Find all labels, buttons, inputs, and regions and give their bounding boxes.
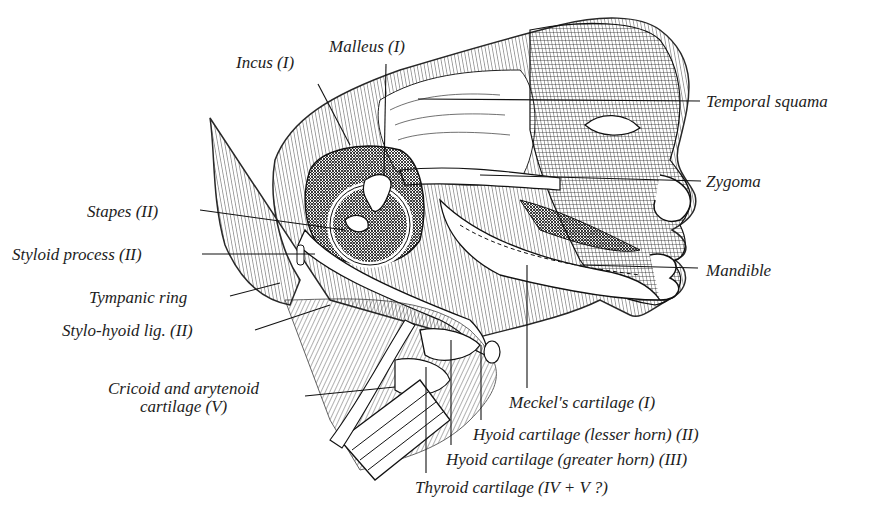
label-tympanic-ring: Tympanic ring: [89, 289, 187, 307]
label-cricoid-arytenoid: Cricoid and arytenoid cartilage (V): [108, 380, 259, 416]
label-zygoma: Zygoma: [706, 173, 761, 191]
label-styloid-process: Styloid process (II): [12, 246, 142, 264]
label-hyoid-lesser-horn: Hyoid cartilage (lesser horn) (II): [473, 426, 699, 444]
label-stylo-hyoid-lig: Stylo-hyoid lig. (II): [62, 322, 193, 340]
label-temporal-squama: Temporal squama: [706, 93, 828, 111]
label-incus: Incus (I): [236, 54, 294, 72]
label-hyoid-greater-horn: Hyoid cartilage (greater horn) (III): [446, 451, 687, 469]
label-thyroid-cartilage: Thyroid cartilage (IV + V ?): [415, 479, 608, 497]
anatomy-figure: Incus (I) Malleus (I) Temporal squama Zy…: [0, 0, 890, 513]
label-stapes: Stapes (II): [87, 203, 158, 221]
label-malleus: Malleus (I): [329, 38, 405, 56]
label-mandible: Mandible: [706, 262, 771, 280]
label-meckels-cartilage: Meckel's cartilage (I): [509, 394, 655, 412]
